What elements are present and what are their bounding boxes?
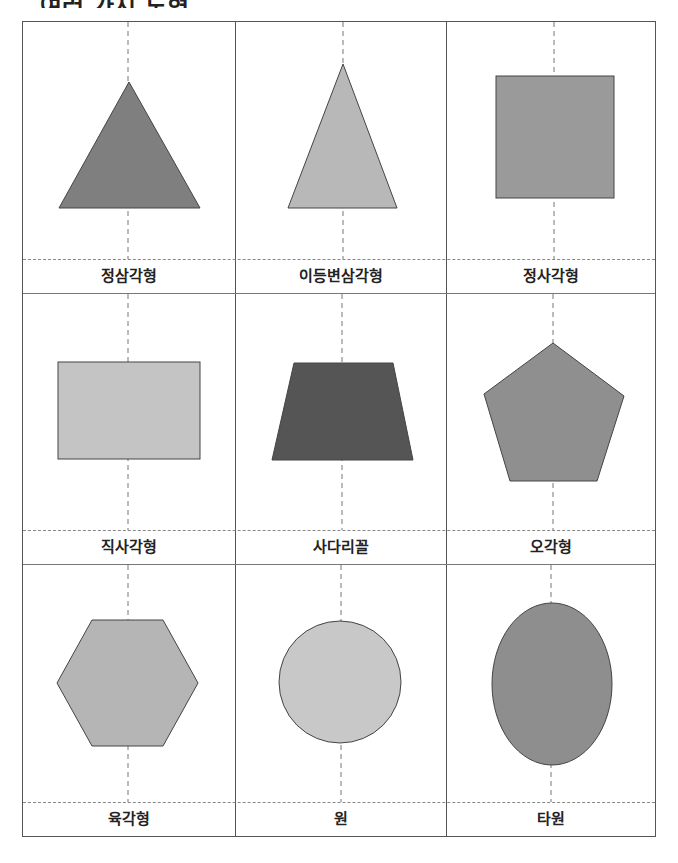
card-label-isosceles-triangle: 이등변삼각형	[236, 260, 446, 292]
shape-card-grid: 정삼각형 이등변삼각형 정사각형 직사각형 사다리꼴 오각형 육각형 원 타원	[22, 21, 656, 837]
column-divider	[235, 22, 236, 836]
card-label-trapezoid: 사다리꼴	[236, 531, 446, 563]
card-label-equilateral-triangle: 정삼각형	[23, 260, 235, 292]
row-divider	[23, 564, 655, 565]
card-label-pentagon: 오각형	[447, 531, 655, 563]
row-divider	[23, 293, 655, 294]
column-divider	[446, 22, 447, 836]
card-label-ellipse: 타원	[447, 803, 655, 835]
card-label-hexagon: 육각형	[23, 803, 235, 835]
card-label-circle: 원	[236, 803, 446, 835]
card-label-rectangle: 직사각형	[23, 531, 235, 563]
card-label-square: 정사각형	[447, 260, 655, 292]
